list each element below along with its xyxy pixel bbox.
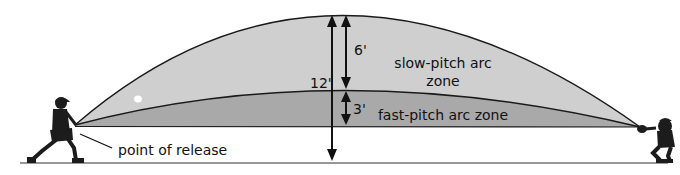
release-line — [75, 127, 640, 128]
height-12ft-label: 12' — [310, 75, 332, 91]
height-6ft-label: 6' — [354, 42, 367, 58]
pitcher-figure — [27, 97, 84, 163]
pitch-arc-diagram: 12' 6' 3' slow-pitch arc zone fast-pitch… — [0, 0, 680, 175]
fast-pitch-zone-label: fast-pitch arc zone — [378, 107, 508, 123]
catcher-figure — [637, 118, 675, 163]
release-pointer — [80, 134, 112, 148]
release-label: point of release — [118, 142, 227, 158]
ball — [134, 96, 142, 103]
slow-pitch-zone-label-line2: zone — [426, 73, 459, 89]
height-3ft-label: 3' — [353, 101, 366, 117]
slow-pitch-zone-label: slow-pitch arc — [394, 55, 491, 71]
